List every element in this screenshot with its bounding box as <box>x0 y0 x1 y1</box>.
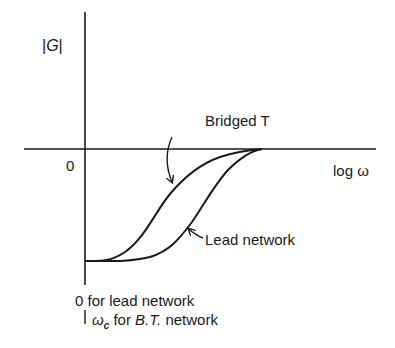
x-axis-label: log ω <box>333 163 369 178</box>
omega-c-symbol: ωc <box>92 311 109 328</box>
lead-network-level-note: 0 for lead network <box>75 293 194 308</box>
lead-network-label: Lead network <box>205 232 295 247</box>
origin-label: 0 <box>66 158 74 173</box>
bridged-t-label: Bridged T <box>205 113 270 128</box>
bode-magnitude-diagram: |G| 0 log ω Bridged T Lead network 0 for… <box>0 0 395 348</box>
bridged-t-level-note: ωc for B.T. network <box>92 312 218 331</box>
lead-network-arrow <box>189 229 203 238</box>
bridged-t-arrow <box>167 137 172 182</box>
y-axis-label: |G| <box>42 38 63 54</box>
